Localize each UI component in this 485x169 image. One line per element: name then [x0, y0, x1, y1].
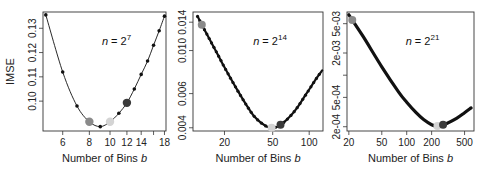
x-tick-label: 20: [219, 137, 231, 148]
data-point: [217, 55, 220, 58]
data-point: [61, 70, 65, 74]
x-axis-title: Number of Bins b: [62, 152, 147, 164]
data-point: [222, 63, 225, 66]
y-axis-title: IMSE: [4, 58, 16, 85]
data-point: [309, 85, 312, 88]
data-point: [315, 77, 318, 80]
data-point: [244, 102, 247, 105]
y-tick-label: 0.11: [27, 67, 38, 86]
highlight-point: [106, 118, 114, 126]
x-tick-label: 10: [104, 137, 116, 148]
panel-n-2-7: 68101214180.100.110.120.13Number of Bins…: [4, 12, 170, 164]
x-tick-label: 100: [301, 137, 318, 148]
data-point: [117, 111, 121, 115]
x-axis-title: Number of Bins b: [368, 152, 453, 164]
data-point: [231, 81, 234, 84]
data-point: [253, 115, 256, 118]
data-point: [264, 124, 267, 127]
imse-curve: [349, 15, 471, 126]
data-point: [133, 87, 137, 91]
highlight-point: [439, 121, 447, 129]
data-point: [210, 41, 213, 44]
data-point: [203, 28, 206, 31]
data-point: [236, 90, 239, 93]
x-tick-label: 12: [121, 137, 133, 148]
y-tick-label: 0.010: [177, 38, 188, 63]
sample-size-annotation: n = 27: [102, 33, 132, 47]
data-point: [239, 94, 242, 97]
data-point: [242, 98, 245, 101]
imse-curve: [198, 16, 323, 127]
plot-frame: [347, 12, 474, 131]
panel-n-2-21: 20501002005002e-045e-042e-035e-03Number …: [331, 10, 474, 164]
data-point: [289, 114, 292, 117]
data-point: [260, 122, 263, 125]
data-point: [212, 46, 215, 49]
x-tick-label: 50: [267, 137, 279, 148]
data-point: [205, 33, 208, 36]
data-point: [301, 98, 304, 101]
data-point: [98, 125, 102, 129]
data-point: [196, 15, 199, 18]
y-tick-label: 5e-04: [331, 84, 342, 110]
highlight-point: [85, 118, 93, 126]
imse-figure: 68101214180.100.110.120.13Number of Bins…: [0, 0, 485, 169]
data-point: [293, 110, 296, 113]
y-tick-label: 0.004: [177, 115, 188, 140]
data-point: [224, 68, 227, 71]
y-tick-label: 0.12: [27, 42, 38, 62]
data-point: [163, 14, 167, 18]
x-tick-label: 6: [60, 137, 66, 148]
highlight-point: [123, 99, 131, 107]
highlight-point: [348, 16, 356, 24]
data-point: [234, 85, 237, 88]
x-tick-label: 20: [343, 137, 355, 148]
y-tick-label: 0.10: [27, 91, 38, 111]
data-point: [152, 43, 156, 47]
data-point: [215, 50, 218, 53]
data-point: [44, 13, 48, 17]
x-tick-label: 18: [159, 137, 171, 148]
x-axis-title: Number of Bins b: [216, 152, 301, 164]
x-tick-label: 100: [398, 137, 415, 148]
data-point: [318, 73, 321, 76]
highlight-point: [198, 21, 206, 29]
data-point: [139, 73, 143, 77]
data-point: [286, 117, 289, 120]
data-point: [250, 111, 253, 114]
data-point: [298, 102, 301, 105]
y-tick-label: 2e-03: [331, 40, 342, 66]
data-point: [219, 59, 222, 62]
highlight-point: [268, 124, 276, 132]
x-tick-label: 8: [87, 137, 93, 148]
plot-frame: [193, 12, 323, 131]
data-point: [247, 107, 250, 110]
data-point: [146, 59, 150, 63]
data-point: [307, 89, 310, 92]
y-tick-label: 0.014: [177, 9, 188, 34]
x-tick-label: 200: [423, 137, 440, 148]
data-point: [75, 104, 79, 108]
x-tick-label: 14: [136, 137, 148, 148]
highlight-point: [277, 121, 285, 129]
data-point: [296, 106, 299, 109]
data-point: [304, 94, 307, 97]
y-tick-label: 0.13: [27, 18, 38, 38]
panel-n-2-14: 20501000.0040.0060.0100.014Number of Bin…: [177, 9, 323, 164]
y-tick-label: 0.006: [177, 81, 188, 106]
data-point: [256, 118, 259, 121]
data-point: [157, 29, 161, 33]
data-point: [312, 81, 315, 84]
data-point: [226, 72, 229, 75]
y-tick-label: 2e-04: [331, 113, 342, 139]
y-tick-label: 5e-03: [331, 10, 342, 36]
sample-size-annotation: n = 214: [253, 33, 287, 47]
x-tick-label: 50: [376, 137, 388, 148]
data-point: [208, 37, 211, 40]
data-point: [229, 77, 232, 80]
sample-size-annotation: n = 221: [406, 33, 440, 47]
x-tick-label: 500: [456, 137, 473, 148]
